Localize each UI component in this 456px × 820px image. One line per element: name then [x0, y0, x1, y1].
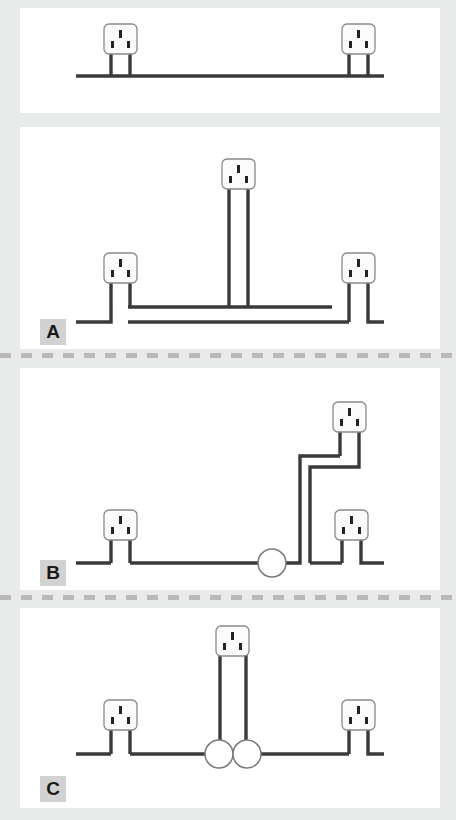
socket-live-slot: [349, 270, 352, 277]
socket-body: [333, 402, 366, 432]
socket-live-slot: [111, 270, 114, 277]
wire-group: [76, 52, 384, 76]
panel-c-drawing: [20, 608, 440, 808]
junction-circle-2[interactable]: [233, 740, 261, 768]
socket-earth-slot: [119, 259, 122, 267]
socket-live-slot: [349, 41, 352, 48]
socket-1[interactable]: [104, 24, 137, 54]
socket-body: [104, 253, 137, 283]
socket-body: [104, 510, 137, 540]
socket-earth-slot: [119, 516, 122, 524]
panel-top: [20, 8, 440, 113]
divider-b-c: [0, 595, 456, 600]
socket-neutral-slot: [239, 643, 242, 650]
socket-live-slot: [229, 176, 232, 183]
socket-earth-slot: [357, 706, 360, 714]
riser-wire-inner: [310, 430, 359, 563]
socket-right[interactable]: [342, 253, 375, 283]
socket-live-slot: [111, 527, 114, 534]
socket-neutral-slot: [127, 41, 130, 48]
socket-neutral-slot: [358, 527, 361, 534]
socket-earth-slot: [357, 259, 360, 267]
socket-earth-slot: [119, 30, 122, 38]
junction-circle-1[interactable]: [205, 740, 233, 768]
socket-body: [342, 700, 375, 730]
socket-earth-slot: [231, 632, 234, 640]
socket-body: [104, 700, 137, 730]
panel-a-drawing: [20, 127, 440, 349]
lower-socket-leg-right-tail: [361, 538, 384, 563]
socket-left[interactable]: [104, 700, 137, 730]
panel-a-label: A: [40, 319, 66, 345]
socket-neutral-slot: [356, 419, 359, 426]
diagram-page: A: [0, 0, 456, 820]
socket-live-slot: [223, 643, 226, 650]
socket-left[interactable]: [104, 510, 137, 540]
socket-earth-slot: [350, 516, 353, 524]
socket-live-slot: [111, 41, 114, 48]
panel-top-drawing: [20, 8, 440, 113]
socket-body: [222, 159, 255, 189]
socket-live-slot: [349, 717, 352, 724]
socket-live-slot: [340, 419, 343, 426]
right-socket-leg-right-tail: [368, 728, 384, 754]
socket-body: [216, 626, 249, 656]
socket-left[interactable]: [104, 253, 137, 283]
socket-neutral-slot: [365, 41, 368, 48]
panel-b: B: [20, 368, 440, 590]
socket-body: [342, 24, 375, 54]
left-tail-lower-wire: [76, 307, 111, 322]
divider-a-b: [0, 353, 456, 358]
socket-earth-slot: [119, 706, 122, 714]
panel-b-label: B: [40, 560, 66, 586]
socket-neutral-slot: [127, 270, 130, 277]
socket-live-slot: [342, 527, 345, 534]
socket-upper-right[interactable]: [333, 402, 366, 432]
socket-earth-slot: [348, 408, 351, 416]
socket-body: [104, 24, 137, 54]
socket-neutral-slot: [245, 176, 248, 183]
junction-circle-1[interactable]: [258, 549, 286, 577]
riser-wire-outer: [285, 456, 340, 563]
socket-body: [335, 510, 368, 540]
socket-live-slot: [111, 717, 114, 724]
socket-neutral-slot: [365, 270, 368, 277]
panel-b-drawing: [20, 368, 440, 590]
socket-2[interactable]: [342, 24, 375, 54]
socket-top-centre[interactable]: [222, 159, 255, 189]
socket-earth-slot: [237, 165, 240, 173]
panel-c-label: C: [40, 776, 66, 802]
panel-c: C: [20, 608, 440, 808]
wire-group: [76, 430, 384, 563]
right-tail-wire: [368, 307, 384, 322]
socket-lower-right[interactable]: [335, 510, 368, 540]
socket-neutral-slot: [127, 717, 130, 724]
panel-a: A: [20, 127, 440, 349]
socket-body: [342, 253, 375, 283]
socket-neutral-slot: [365, 717, 368, 724]
socket-neutral-slot: [127, 527, 130, 534]
socket-earth-slot: [357, 30, 360, 38]
socket-top-centre[interactable]: [216, 626, 249, 656]
socket-right[interactable]: [342, 700, 375, 730]
